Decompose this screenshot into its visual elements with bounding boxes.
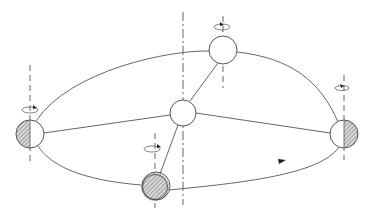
central-body — [170, 100, 196, 126]
rotation-arrow-icon — [214, 22, 230, 30]
satellite-right — [330, 75, 358, 160]
satellite-top — [209, 16, 237, 88]
orbit-direction-arrow-icon — [278, 159, 286, 164]
rotation-arrow-icon — [144, 144, 161, 152]
rotation-arrow-icon — [335, 84, 349, 91]
orbit-diagram — [0, 0, 368, 217]
satellite-left — [16, 65, 44, 165]
satellite-bottom — [141, 133, 170, 208]
